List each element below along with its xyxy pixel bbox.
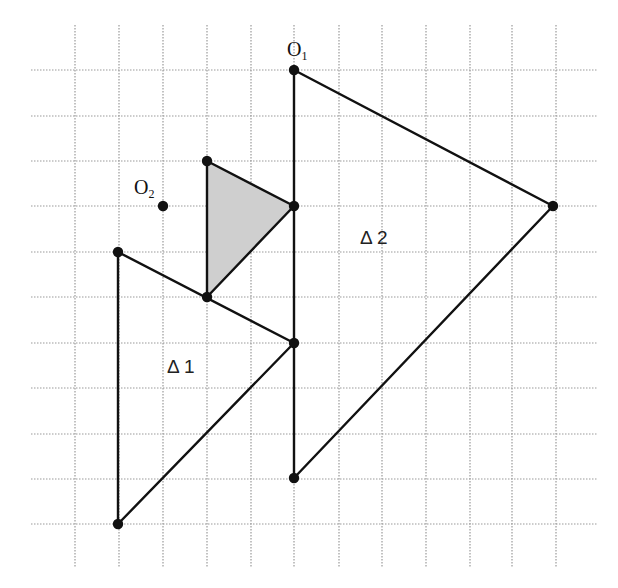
o2-letter: O [134, 176, 148, 198]
point-label-o2: O2 [134, 177, 154, 200]
grid-lines [31, 25, 597, 567]
vertex-dot [158, 201, 168, 211]
vertex-dot [202, 156, 212, 166]
vertex-dot [113, 519, 123, 529]
triangle-label-delta1: Δ 1 [167, 357, 195, 376]
vertex-dot [289, 338, 299, 348]
vertex-dot [113, 247, 123, 257]
vertex-dot [548, 201, 558, 211]
o2-subscript: 2 [148, 187, 154, 201]
triangle-delta2 [294, 70, 553, 478]
diagram-canvas [0, 0, 618, 588]
vertex-dot [289, 473, 299, 483]
o1-subscript: 1 [301, 49, 307, 63]
vertex-dot [289, 201, 299, 211]
o1-letter: O [287, 38, 301, 60]
vertex-dot [289, 65, 299, 75]
triangle-label-delta2: Δ 2 [360, 228, 388, 247]
point-label-o1: O1 [287, 39, 307, 62]
vertex-dot [202, 292, 212, 302]
